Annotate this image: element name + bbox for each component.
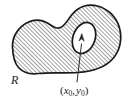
region-label-R: R <box>11 74 18 86</box>
figure-container: R (x0, y0) <box>0 0 131 101</box>
point-label-comma: , <box>72 84 75 96</box>
point-coordinate-label: (x0, y0) <box>60 85 88 96</box>
point-label-close-paren: ) <box>85 84 89 96</box>
point-label-y-subscript: 0 <box>81 89 85 98</box>
point-label-x-var: x <box>64 84 69 96</box>
point-label-x-subscript: 0 <box>69 89 73 98</box>
